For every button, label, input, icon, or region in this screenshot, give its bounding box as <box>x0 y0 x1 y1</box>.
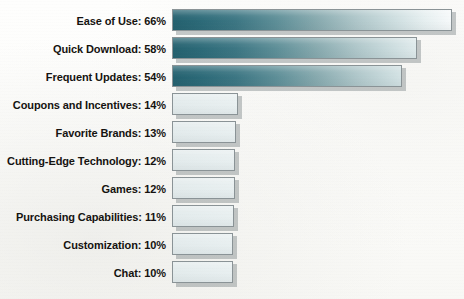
bar-label: Ease of Use: 66% <box>0 8 166 35</box>
bar-fill <box>173 206 234 226</box>
bar-row[interactable]: Quick Download: 58% <box>0 36 464 63</box>
bar-fill <box>173 122 236 142</box>
bar-label: Frequent Updates: 54% <box>0 64 166 91</box>
bar-fill <box>173 66 402 86</box>
bar-label: Chat: 10% <box>0 260 166 287</box>
bar-shape[interactable] <box>172 93 238 115</box>
bar-fill <box>173 150 235 170</box>
bar-label: Quick Download: 58% <box>0 36 166 63</box>
bar-label: Coupons and Incentives: 14% <box>0 92 166 119</box>
bar-shape[interactable] <box>172 9 452 31</box>
bar-row[interactable]: Games: 12% <box>0 176 464 203</box>
bar-fill <box>173 178 235 198</box>
bar-rows-container: Ease of Use: 66% Quick Download: 58% Fre… <box>0 0 464 299</box>
bar-shape[interactable] <box>172 233 233 255</box>
bar-fill <box>173 38 417 58</box>
bar-row[interactable]: Favorite Brands: 13% <box>0 120 464 147</box>
bar-label: Customization: 10% <box>0 232 166 259</box>
bar-label: Cutting-Edge Technology: 12% <box>0 148 166 175</box>
bar-fill <box>173 262 233 282</box>
bar-row[interactable]: Purchasing Capabilities: 11% <box>0 204 464 231</box>
bar-label: Games: 12% <box>0 176 166 203</box>
bar-row[interactable]: Chat: 10% <box>0 260 464 287</box>
bar-shape[interactable] <box>172 65 402 87</box>
bar-shape[interactable] <box>172 121 236 143</box>
bar-shape[interactable] <box>172 177 235 199</box>
bar-shape[interactable] <box>172 37 417 59</box>
bar-shape[interactable] <box>172 149 235 171</box>
bar-label: Purchasing Capabilities: 11% <box>0 204 166 231</box>
bar-chart: Ease of Use: 66% Quick Download: 58% Fre… <box>0 0 464 299</box>
bar-label: Favorite Brands: 13% <box>0 120 166 147</box>
bar-row[interactable]: Cutting-Edge Technology: 12% <box>0 148 464 175</box>
bar-shape[interactable] <box>172 261 233 283</box>
bar-row[interactable]: Ease of Use: 66% <box>0 8 464 35</box>
bar-fill <box>173 234 233 254</box>
bar-shape[interactable] <box>172 205 234 227</box>
bar-fill <box>173 94 238 114</box>
bar-row[interactable]: Frequent Updates: 54% <box>0 64 464 91</box>
bar-row[interactable]: Coupons and Incentives: 14% <box>0 92 464 119</box>
bar-row[interactable]: Customization: 10% <box>0 232 464 259</box>
bar-fill <box>173 10 452 30</box>
